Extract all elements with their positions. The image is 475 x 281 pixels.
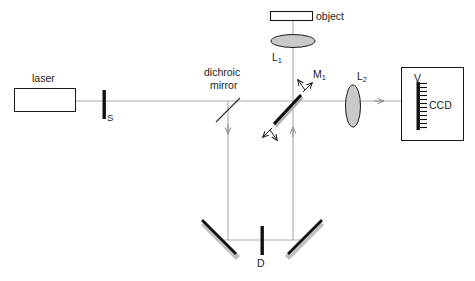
object-label: object: [316, 11, 344, 22]
beamsplitter-m1-label: M1: [313, 69, 326, 80]
lens-l1-label-base: L: [272, 51, 278, 63]
ccd-label: CCD: [429, 100, 452, 111]
m1-arrow-lower: [263, 128, 272, 137]
beamsplitter-m1-label-sub: 1: [322, 73, 326, 82]
beam-paths: [75, 20, 440, 240]
beamsplitter-m1: [263, 80, 312, 140]
m1-surface: [274, 95, 301, 124]
lens-l1-label: L1: [272, 52, 282, 63]
object-plate: [271, 12, 313, 21]
m1-arrow-lower-back: [270, 130, 277, 140]
shutter-label: S: [107, 113, 113, 123]
m1-arrow-upper-back: [298, 80, 305, 90]
laser-source: [15, 89, 76, 112]
detector-d-bar: [261, 226, 264, 255]
shutter-bar: [103, 90, 106, 119]
optical-setup-figure: laser S dichroic mirror object L1 M1 L2 …: [0, 0, 475, 281]
lens-l2: [346, 85, 361, 127]
ccd-voltage-label: V: [414, 73, 421, 84]
detector-d-label: D: [257, 258, 265, 269]
beamsplitter-m1-label-base: M: [313, 68, 322, 80]
mirror-bottom-right: [287, 220, 322, 258]
m1-arrow-upper: [303, 83, 312, 92]
lens-l2-label-sub: 2: [363, 75, 367, 84]
dichroic-mirror-label-line2: mirror: [210, 80, 237, 91]
figure-canvas: [0, 0, 475, 281]
lens-l1: [271, 35, 315, 48]
lens-l2-label: L2: [357, 71, 367, 82]
lens-l2-label-base: L: [357, 70, 363, 82]
mirror-bottom-left: [202, 220, 238, 258]
lens-l1-label-sub: 1: [278, 56, 282, 65]
mirror-bl-surface: [202, 220, 236, 254]
dichroic-mirror-label-line1: dichroic: [204, 67, 240, 78]
laser-label: laser: [32, 73, 55, 84]
